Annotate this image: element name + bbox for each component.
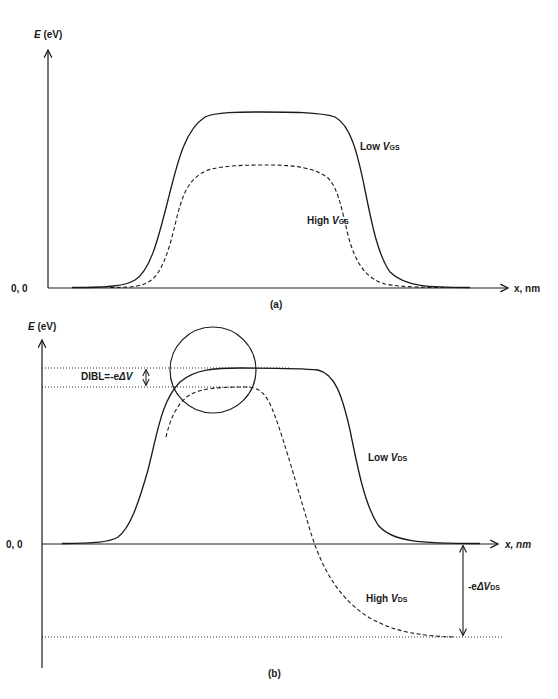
figure-canvas: E (eV) 0, 0 x, nm Low VGS High VGS (a) E… <box>0 0 558 699</box>
panel-b-x-axis-label: x, nm <box>504 539 531 550</box>
panel-b-high-vds-label: High VDS <box>366 593 408 604</box>
panel-a: E (eV) 0, 0 x, nm Low VGS High VGS (a) <box>11 29 540 310</box>
panel-a-high-vgs-label: High VGS <box>307 215 349 226</box>
panel-b-high-vds-curve <box>166 387 455 637</box>
panel-a-origin-label: 0, 0 <box>11 283 28 294</box>
panel-a-low-vgs-curve <box>72 112 470 288</box>
panel-a-low-vgs-label: Low VGS <box>360 141 400 152</box>
panel-b-low-vds-curve <box>62 368 480 544</box>
panel-a-x-axis-label: x, nm <box>514 283 540 294</box>
panel-b-origin-label: 0, 0 <box>6 539 23 550</box>
panel-b-y-axis-label: E (eV) <box>28 321 56 332</box>
panel-b-caption: (b) <box>268 668 281 679</box>
panel-b-barrier-highlight-circle <box>170 327 256 413</box>
panel-b-dibl-label: DIBL=-eΔV <box>81 371 134 382</box>
panel-a-high-vgs-curve <box>110 165 470 288</box>
panel-a-y-axis-label: E (eV) <box>34 29 62 40</box>
panel-b-drain-drop-label: -eΔVDS <box>468 581 500 592</box>
panel-a-caption: (a) <box>270 299 282 310</box>
panel-b-low-vds-label: Low VDS <box>368 452 408 463</box>
panel-b: E (eV) 0, 0 x, nm DIBL=-eΔV Low VDS High… <box>6 321 531 679</box>
